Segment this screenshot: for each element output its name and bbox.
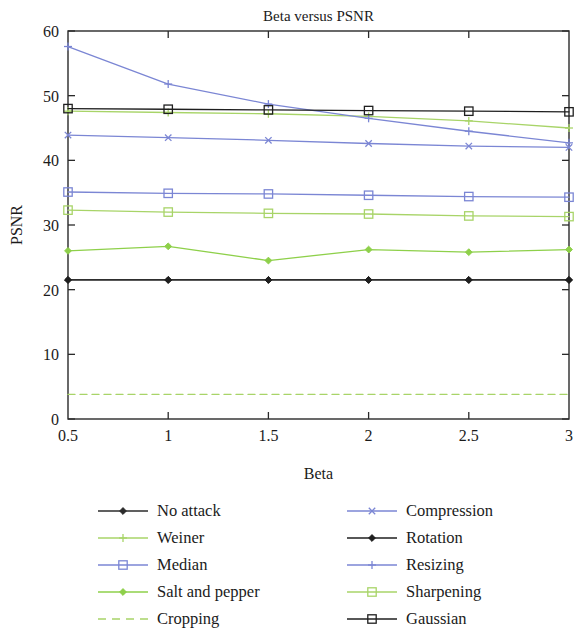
y-tick-label: 20: [43, 282, 59, 299]
series-line: [68, 210, 569, 216]
x-tick-label: 2.5: [459, 427, 479, 444]
legend-item-sharpening[interactable]: Sharpening: [345, 578, 493, 605]
legend-item-rotation[interactable]: Rotation: [345, 524, 493, 551]
y-tick-label: 10: [43, 346, 59, 363]
series-rotation: [65, 277, 573, 284]
series-marker-diamond: [265, 277, 272, 284]
legend-label: No attack: [150, 501, 221, 521]
x-axis-label: Beta: [304, 465, 333, 482]
legend-item-salt-and-pepper[interactable]: Salt and pepper: [96, 578, 260, 605]
legend-marker-x-icon: [345, 501, 399, 521]
legend-marker-square-icon: [345, 582, 399, 602]
series-marker-diamond: [165, 277, 172, 284]
series-gaussian: [64, 104, 573, 116]
series-marker-diamond: [265, 257, 272, 264]
series-line: [68, 111, 569, 128]
legend-marker-diamond: [369, 534, 376, 541]
legend-item-gaussian[interactable]: Gaussian: [345, 605, 493, 632]
series-line: [68, 135, 569, 147]
x-tick-label: 0.5: [58, 427, 78, 444]
legend-label: Median: [150, 555, 207, 575]
legend-column-1: No attackWeinerMedianSalt and pepperCrop…: [96, 497, 260, 632]
series-median: [64, 188, 573, 202]
legend-item-median[interactable]: Median: [96, 551, 260, 578]
series-marker-diamond: [566, 246, 573, 253]
series-marker-diamond: [365, 277, 372, 284]
legend-label: Rotation: [399, 528, 463, 548]
legend-marker-square-icon: [345, 609, 399, 629]
legend-marker-plus-icon: [345, 555, 399, 575]
series-marker-diamond: [566, 277, 573, 284]
series-line: [68, 192, 569, 197]
legend-label: Resizing: [399, 555, 464, 575]
legend-marker-square-icon: [96, 555, 150, 575]
x-tick-label: 1.5: [258, 427, 278, 444]
legend-label: Gaussian: [399, 609, 467, 629]
legend-item-resizing[interactable]: Resizing: [345, 551, 493, 578]
legend-marker-diamond: [120, 588, 127, 595]
y-tick-label: 50: [43, 88, 59, 105]
chart-legend: No attackWeinerMedianSalt and pepperCrop…: [0, 497, 579, 634]
legend-column-2: CompressionRotationResizingSharpeningGau…: [345, 497, 493, 632]
series-marker-diamond: [65, 277, 72, 284]
legend-item-compression[interactable]: Compression: [345, 497, 493, 524]
series-line: [68, 246, 569, 260]
legend-item-cropping[interactable]: Cropping: [96, 605, 260, 632]
legend-marker-diamond: [120, 507, 127, 514]
legend-label: Weiner: [150, 528, 204, 548]
series-marker-diamond: [165, 243, 172, 250]
series-marker-diamond: [365, 246, 372, 253]
series-line: [68, 47, 569, 143]
series-sharpening: [64, 206, 573, 221]
legend-label: Sharpening: [399, 582, 481, 602]
legend-label: Salt and pepper: [150, 582, 260, 602]
y-tick-label: 0: [51, 411, 59, 428]
legend-item-weiner[interactable]: Weiner: [96, 524, 260, 551]
chart-title: Beta versus PSNR: [263, 8, 374, 24]
y-tick-label: 60: [43, 23, 59, 40]
x-tick-label: 2: [365, 427, 373, 444]
figure-container: Beta versus PSNR01020304050600.511.522.5…: [0, 0, 579, 634]
legend-marker-diamond-icon: [96, 582, 150, 602]
y-tick-label: 40: [43, 152, 59, 169]
series-resizing: [64, 43, 573, 147]
legend-marker-line-icon: [96, 609, 150, 629]
x-tick-label: 3: [565, 427, 573, 444]
series-marker-diamond: [465, 249, 472, 256]
x-tick-label: 1: [164, 427, 172, 444]
legend-item-no-attack[interactable]: No attack: [96, 497, 260, 524]
legend-label: Compression: [399, 501, 493, 521]
legend-label: Cropping: [150, 609, 219, 629]
series-salt-and-pepper: [65, 243, 573, 264]
legend-marker-plus-icon: [96, 528, 150, 548]
legend-marker-diamond-icon: [96, 501, 150, 521]
series-marker-diamond: [465, 277, 472, 284]
y-tick-label: 30: [43, 217, 59, 234]
y-axis-label: PSNR: [8, 205, 25, 245]
legend-marker-diamond-icon: [345, 528, 399, 548]
series-marker-diamond: [65, 247, 72, 254]
chart-plot: Beta versus PSNR01020304050600.511.522.5…: [0, 0, 579, 497]
plot-frame: [68, 31, 569, 419]
